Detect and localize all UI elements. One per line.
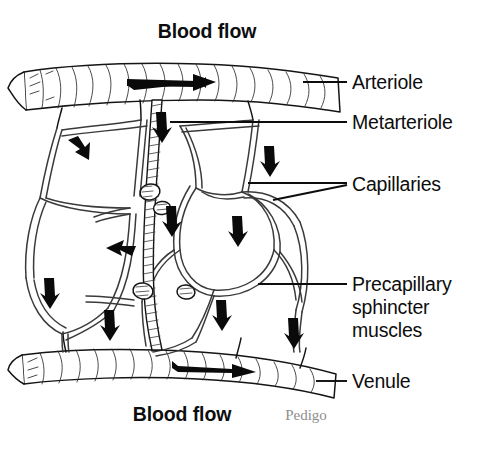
label-precapillary-line1: Precapillary — [352, 273, 452, 295]
network-flow-arrow — [40, 278, 60, 309]
bottom-blood-flow-caption: Blood flow — [133, 403, 233, 425]
flow-arrows — [40, 74, 304, 378]
label-capillaries: Capillaries — [352, 173, 441, 195]
artist-signature: Pedigo — [285, 407, 327, 423]
precapillary-sphincters — [132, 182, 196, 301]
network-flow-arrow — [228, 216, 248, 247]
label-precapillary-sphincter-muscles: Precapillary sphincter muscles — [352, 273, 452, 341]
arteriole-vessel — [8, 63, 340, 128]
network-flow-arrow — [260, 146, 280, 177]
top-blood-flow-caption: Blood flow — [158, 20, 258, 42]
network-flow-arrow — [100, 310, 120, 341]
label-metarteriole: Metarteriole — [352, 111, 453, 133]
label-precapillary-line2: sphincter — [352, 296, 430, 318]
label-venule: Venule — [352, 370, 410, 392]
label-precapillary-line3: muscles — [352, 319, 423, 341]
network-flow-arrow — [106, 240, 136, 256]
capillaries-leader-lower — [273, 185, 347, 200]
capillary-bed-diagram: Blood flow — [0, 0, 500, 455]
network-flow-arrow — [212, 300, 232, 331]
label-arteriole: Arteriole — [352, 71, 423, 93]
network-flow-arrow — [68, 136, 90, 160]
